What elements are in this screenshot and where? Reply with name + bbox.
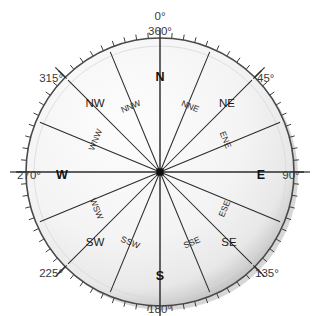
- degree-tick: [124, 37, 125, 42]
- degree-tick: [217, 46, 219, 51]
- dir-NW-label: NW: [85, 97, 104, 109]
- dir-S-label: S: [156, 269, 164, 283]
- degree-tick: [39, 102, 44, 105]
- deg-135-label: 135°: [255, 267, 279, 279]
- degree-tick: [53, 258, 57, 262]
- dir-NE-label: NE: [219, 97, 235, 109]
- dir-W-label: W: [56, 168, 68, 182]
- degree-tick: [80, 282, 83, 287]
- deg-315-label: 315°: [39, 72, 63, 84]
- deg-90-label: 90°: [282, 169, 299, 181]
- deg-0-label: 0°: [155, 10, 166, 22]
- compass-center-hub: [156, 168, 163, 175]
- degree-tick: [80, 58, 83, 63]
- dir-SW-label: SW: [86, 236, 105, 248]
- degree-tick: [90, 51, 93, 56]
- degree-tick: [34, 229, 39, 231]
- degree-tick: [25, 136, 30, 137]
- degree-tick: [237, 58, 240, 63]
- compass-rose-figure: 0°360°45°90°135°180°225°270°315° NESW NE…: [0, 0, 317, 316]
- degree-tick: [206, 41, 208, 46]
- degree-tick: [29, 124, 34, 126]
- deg-360-label: 360°: [148, 25, 172, 37]
- deg-45-label: 45°: [257, 72, 274, 84]
- degree-tick: [29, 218, 34, 220]
- degree-tick: [101, 46, 103, 51]
- degree-tick: [23, 148, 28, 149]
- degree-tick: [25, 207, 30, 208]
- degree-tick: [34, 113, 39, 115]
- degree-tick: [112, 41, 114, 46]
- degree-tick: [227, 51, 230, 56]
- deg-180-label: 180°: [148, 303, 172, 315]
- degree-tick: [270, 92, 275, 95]
- dir-N-label: N: [155, 70, 164, 84]
- degree-tick: [246, 65, 250, 69]
- deg-225-label: 225°: [39, 267, 63, 279]
- degree-tick: [46, 92, 51, 95]
- degree-tick: [136, 35, 137, 40]
- degree-tick: [23, 195, 28, 196]
- degree-tick: [70, 65, 74, 69]
- degree-tick: [70, 275, 74, 279]
- deg-270-label: 270°: [17, 169, 41, 181]
- degree-tick: [46, 249, 51, 252]
- dir-SE-label: SE: [221, 236, 237, 248]
- degree-tick: [195, 37, 196, 42]
- compass-rose-diagram: 0°360°45°90°135°180°225°270°315° NESW NE…: [0, 0, 317, 316]
- degree-tick: [183, 35, 184, 40]
- dir-E-label: E: [257, 168, 265, 182]
- degree-tick: [39, 239, 44, 242]
